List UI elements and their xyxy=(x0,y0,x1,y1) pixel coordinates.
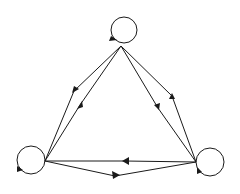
graph-canvas xyxy=(0,0,240,194)
arrowhead-icon xyxy=(122,157,129,165)
arrowhead-icon xyxy=(112,171,120,179)
edge-line xyxy=(45,161,196,162)
node-left xyxy=(17,146,45,174)
edge-top-to-right xyxy=(121,46,196,162)
edge-right-to-left xyxy=(45,157,196,165)
arrowhead-icon xyxy=(154,103,160,110)
arrowhead-icon xyxy=(77,101,83,109)
graph-diagram xyxy=(0,0,240,194)
edge-line xyxy=(45,161,196,176)
node-top xyxy=(109,17,137,43)
node-right xyxy=(196,148,224,176)
edge-left-to-top xyxy=(45,46,121,161)
edge-left-to-right xyxy=(45,161,196,179)
edge-line xyxy=(45,46,121,161)
